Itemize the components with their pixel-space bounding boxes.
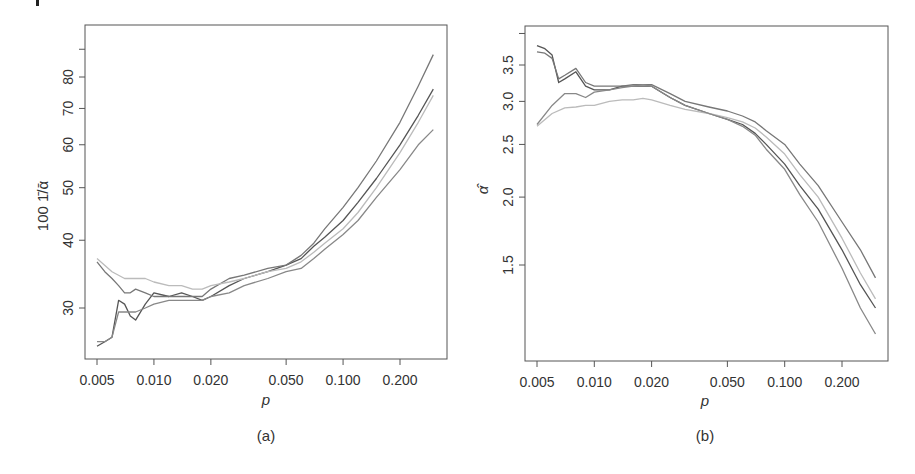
x-tick-label: 0.050 [710, 374, 745, 390]
x-axis-a: 0.0050.0100.0200.0500.1000.200 [79, 359, 417, 388]
series-line-2 [97, 55, 433, 297]
panel-caption-b: (b) [696, 427, 714, 444]
y-tick-label: 30 [60, 300, 76, 316]
x-tick-label: 0.005 [79, 372, 114, 388]
y-tick-label: 1.5 [500, 255, 516, 275]
x-axis-label-a: p [261, 391, 270, 408]
corner-mark [36, 0, 39, 6]
y-axis-label-b: α̂ [474, 183, 491, 195]
y-axis-b: 1.52.02.53.03.5 [500, 33, 525, 274]
x-axis-label-b: p [700, 392, 709, 409]
series-line-3 [97, 95, 433, 289]
y-axis-label-a: 100 1̄/ᾱ [34, 180, 51, 231]
panel-a: 0.0050.0100.0200.0500.1000.200 304050607… [34, 25, 447, 444]
series-line-1 [537, 46, 876, 308]
x-axis-b: 0.0050.0100.0200.0500.1000.200 [519, 361, 859, 390]
y-tick-label: 60 [60, 137, 76, 153]
figure: 0.0050.0100.0200.0500.1000.200 304050607… [0, 0, 915, 474]
series-layer-b [537, 46, 876, 334]
y-tick-label: 2.5 [500, 134, 516, 154]
panel-caption-a: (a) [257, 427, 275, 444]
y-tick-label: 80 [60, 69, 76, 85]
x-tick-label: 0.200 [824, 374, 859, 390]
x-tick-label: 0.100 [326, 372, 361, 388]
series-line-4 [97, 130, 433, 342]
x-tick-label: 0.200 [382, 372, 417, 388]
y-tick-label: 2.0 [500, 187, 516, 207]
x-tick-label: 0.005 [519, 374, 554, 390]
x-tick-label: 0.010 [136, 372, 171, 388]
y-tick-label: 70 [60, 100, 76, 116]
chart-canvas: 0.0050.0100.0200.0500.1000.200 304050607… [0, 0, 915, 474]
x-tick-label: 0.010 [577, 374, 612, 390]
x-tick-label: 0.020 [634, 374, 669, 390]
y-tick-label: 3.5 [500, 55, 516, 75]
y-tick-label: 50 [60, 180, 76, 196]
series-line-2 [537, 52, 876, 278]
y-tick-label: 40 [60, 232, 76, 248]
x-tick-label: 0.100 [767, 374, 802, 390]
series-line-3 [537, 98, 876, 298]
series-layer-a [97, 55, 433, 347]
x-tick-label: 0.020 [193, 372, 228, 388]
panel-b: 0.0050.0100.0200.0500.1000.200 1.52.02.5… [474, 26, 888, 444]
plot-frame-a [85, 25, 447, 359]
y-tick-label: 3.0 [500, 91, 516, 111]
x-tick-label: 0.050 [269, 372, 304, 388]
y-axis-a: 304050607080 [60, 49, 85, 316]
